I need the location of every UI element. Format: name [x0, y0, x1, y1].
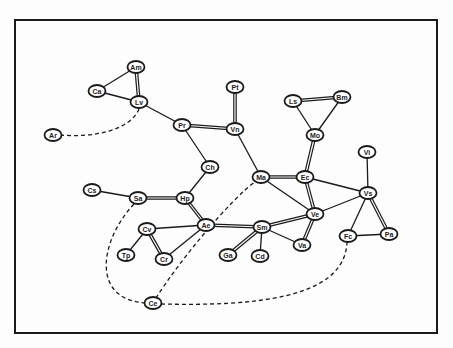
node-label: Tp [122, 252, 131, 260]
node-label: Ae [202, 222, 211, 229]
node-label: Lv [135, 99, 143, 106]
node-vs: Vs [360, 187, 377, 199]
node-label: Bm [336, 94, 347, 101]
node-ga: Ga [220, 249, 237, 261]
node-label: Cd [255, 253, 264, 260]
node-ar: Ar [45, 129, 62, 141]
diagram-frame [15, 20, 437, 333]
node-label: Mo [310, 132, 320, 139]
node-label: Cv [143, 226, 152, 233]
node-ec: Ec [297, 171, 314, 183]
node-vn: Vn [227, 123, 244, 135]
node-vi: Vi [359, 146, 376, 158]
node-bm: Bm [334, 91, 351, 103]
node-sm: Sm [254, 221, 271, 233]
node-label: Pa [385, 231, 394, 238]
node-label: Vs [364, 190, 373, 197]
node-pa: Pa [381, 228, 398, 240]
node-label: Ch [205, 164, 214, 171]
node-pt: Pt [227, 81, 244, 93]
node-lv: Lv [131, 96, 148, 108]
node-ls: Ls [285, 95, 302, 107]
node-label: Va [298, 242, 306, 249]
node-label: Cr [160, 256, 168, 263]
node-cr: Cr [156, 253, 173, 265]
node-label: Ca [93, 88, 102, 95]
node-ma: Ma [253, 171, 270, 183]
node-sa: Sa [130, 192, 147, 204]
node-label: Ma [256, 174, 266, 181]
dashed-edge-ar-lv [60, 109, 139, 136]
node-label: Ar [49, 132, 57, 139]
node-label: Pr [178, 122, 186, 129]
nodes: AmCaLvArPrVnPtChLsBmMoViMaEcVsVeFcPaSmVa… [45, 61, 398, 309]
node-label: Sa [134, 195, 143, 202]
node-am: Am [128, 61, 145, 73]
node-label: Vi [364, 149, 371, 156]
node-ca: Ca [89, 85, 106, 97]
node-cv: Cv [139, 223, 156, 235]
node-hp: Hp [177, 192, 194, 204]
node-ae: Ae [198, 219, 215, 231]
node-label: Hp [180, 195, 189, 203]
node-label: Ls [289, 98, 297, 105]
node-mo: Mo [307, 129, 324, 141]
node-ce: Ce [145, 297, 162, 309]
node-label: Ec [301, 174, 310, 181]
node-pr: Pr [174, 119, 191, 131]
node-fc: Fc [340, 230, 357, 242]
node-label: Fc [344, 233, 352, 240]
node-label: Am [130, 64, 141, 71]
network-diagram: AmCaLvArPrVnPtChLsBmMoViMaEcVsVeFcPaSmVa… [0, 0, 453, 348]
node-label: Pt [232, 84, 240, 91]
node-va: Va [294, 239, 311, 251]
node-label: Ve [311, 211, 319, 218]
node-label: Vn [231, 126, 240, 133]
node-ch: Ch [202, 161, 219, 173]
node-label: Sm [257, 224, 268, 231]
edge-pr-ch [182, 125, 210, 167]
node-label: Cs [88, 187, 97, 194]
edge-vn-ma [235, 129, 261, 177]
node-label: Ce [149, 300, 158, 307]
node-cd: Cd [252, 250, 269, 262]
node-tp: Tp [118, 249, 135, 261]
node-cs: Cs [84, 184, 101, 196]
node-label: Ga [223, 252, 232, 259]
node-ve: Ve [307, 208, 324, 220]
edge-ec-vs [305, 177, 368, 193]
